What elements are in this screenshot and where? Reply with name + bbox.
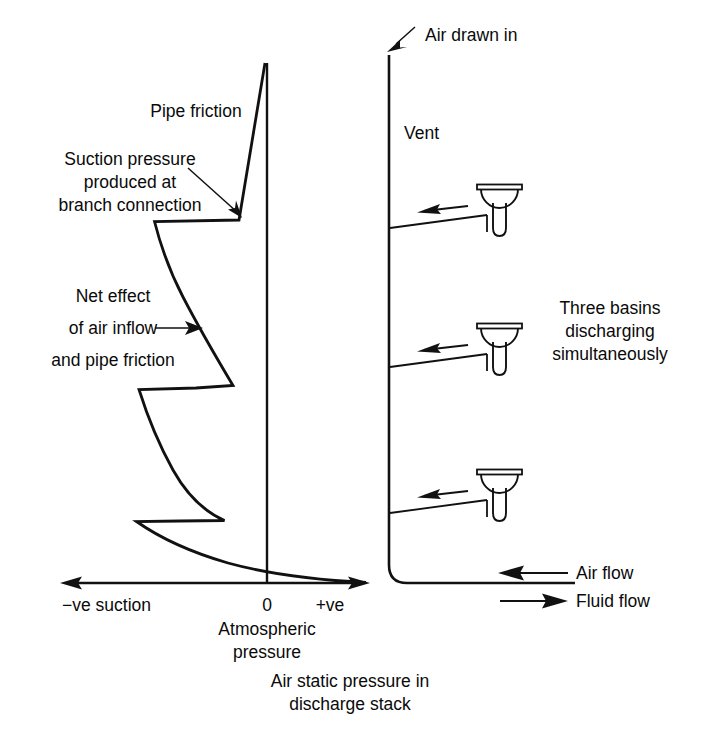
annotation-net-effect-line2: of air inflow [69, 317, 158, 340]
note-three-basins-line3: simultaneously [552, 343, 668, 366]
legend-label-fluid-flow: Fluid flow [576, 590, 650, 613]
note-three-basins-line2: discharging [565, 320, 655, 343]
annotation-net-effect-line3: and pipe friction [51, 349, 175, 372]
label-air-drawn-in: Air drawn in [425, 24, 517, 47]
annotation-suction-pressure-line2: produced at [84, 171, 176, 194]
axis-datum-label-line2: pressure [233, 641, 301, 664]
basin-1-bowl [481, 189, 518, 208]
annotation-pipe-friction: Pipe friction [150, 100, 241, 123]
basin-2-branch-pipe [390, 354, 487, 367]
basin-2-bowl [481, 328, 518, 347]
basin-1-branch-pipe [390, 215, 487, 228]
axis-label-positive: +ve [316, 594, 345, 617]
diagram-canvas [0, 0, 704, 745]
annotation-suction-pressure-line1: Suction pressure [64, 148, 195, 171]
basin-3-bowl [481, 474, 518, 493]
figure-root: Pipe friction Suction pressure produced … [0, 0, 704, 745]
basin-1 [390, 185, 522, 237]
pressure-profile-curve [137, 63, 367, 583]
basin-2-rim [477, 324, 522, 329]
note-three-basins-line1: Three basins [559, 297, 660, 320]
basin-3-rim [477, 470, 522, 475]
annotation-suction-pressure-line3: branch connection [58, 194, 201, 217]
axis-label-negative-suction: −ve suction [62, 594, 151, 617]
basin-1-rim [477, 185, 522, 190]
label-vent: Vent [404, 122, 439, 145]
basin-3 [390, 470, 522, 522]
legend-label-air-flow: Air flow [576, 562, 633, 585]
basin-3-branch-pipe [390, 500, 487, 513]
basin-2 [390, 324, 522, 376]
axis-datum-label-line1: Atmospheric [218, 618, 315, 641]
annotation-net-effect-line1: Net effect [76, 285, 151, 308]
figure-caption-line2: discharge stack [289, 693, 411, 716]
air-drawn-in-arrow-icon [387, 40, 407, 52]
figure-caption-line1: Air static pressure in [271, 670, 430, 693]
axis-label-zero: 0 [262, 594, 272, 617]
